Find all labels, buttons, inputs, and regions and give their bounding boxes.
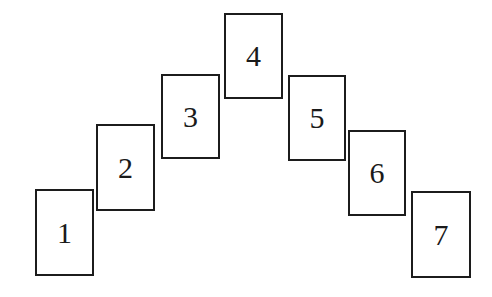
numbered-box-3: 3 <box>161 74 220 159</box>
box-label: 1 <box>57 218 72 248</box>
numbered-box-1: 1 <box>35 189 94 276</box>
box-label: 3 <box>183 102 198 132</box>
box-label: 5 <box>310 103 325 133</box>
box-label: 6 <box>370 158 385 188</box>
numbered-box-5: 5 <box>288 75 346 161</box>
figure-canvas: 1234567 <box>0 0 492 297</box>
numbered-box-2: 2 <box>96 124 155 211</box>
numbered-box-6: 6 <box>348 130 406 216</box>
box-label: 7 <box>434 220 449 250</box>
numbered-box-4: 4 <box>224 13 283 99</box>
box-label: 4 <box>246 41 261 71</box>
box-label: 2 <box>118 153 133 183</box>
numbered-box-7: 7 <box>411 191 471 278</box>
